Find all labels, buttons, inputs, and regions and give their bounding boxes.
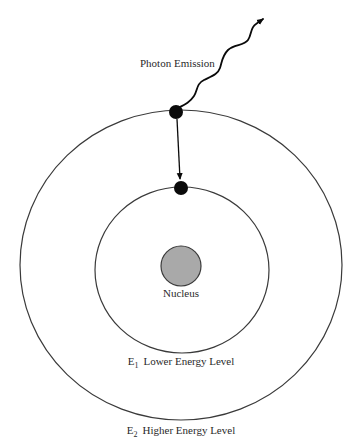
electron-inner bbox=[174, 181, 188, 195]
e1-subscript: 1 bbox=[134, 361, 138, 370]
electron-outer bbox=[169, 105, 183, 119]
photon-emission-label: Photon Emission bbox=[140, 57, 215, 69]
bohr-atom-diagram: Photon Emission Nucleus E1Lower Energy L… bbox=[0, 0, 359, 444]
e2-level-label: E2Higher Energy Level bbox=[127, 424, 235, 439]
e2-text: Higher Energy Level bbox=[143, 424, 236, 436]
nucleus-label: Nucleus bbox=[163, 287, 199, 299]
e1-level-label: E1Lower Energy Level bbox=[128, 355, 235, 370]
e1-text: Lower Energy Level bbox=[143, 355, 234, 367]
transition-arrow bbox=[177, 119, 180, 179]
e2-subscript: 2 bbox=[134, 430, 138, 439]
nucleus-circle bbox=[161, 246, 201, 286]
